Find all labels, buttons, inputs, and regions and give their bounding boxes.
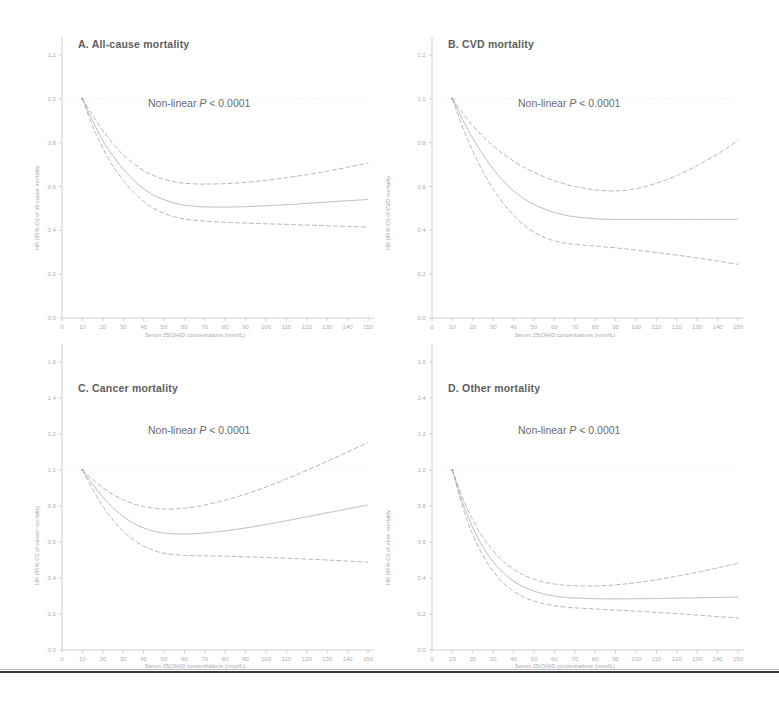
x-tick-label: 140 — [713, 655, 724, 662]
y-tick-label: 0.4 — [418, 574, 427, 581]
x-tick-label: 60 — [551, 655, 558, 662]
x-tick-label: 90 — [612, 655, 619, 662]
scan-artifact-rule — [0, 671, 779, 673]
confidence-interval-curve — [452, 470, 738, 618]
panel-d-plot: 0.00.20.40.60.81.01.21.41.60102030405060… — [0, 0, 779, 701]
x-tick-label: 40 — [510, 655, 517, 662]
y-tick-label: 1.4 — [418, 394, 427, 401]
x-tick-label: 120 — [672, 655, 683, 662]
x-tick-label: 80 — [592, 655, 599, 662]
x-tick-label: 70 — [571, 655, 578, 662]
y-tick-label: 0.8 — [418, 502, 427, 509]
y-tick-label: 1.0 — [418, 466, 427, 473]
x-tick-label: 10 — [449, 655, 456, 662]
y-tick-label: 0.2 — [418, 610, 427, 617]
hazard-ratio-curve — [452, 470, 738, 599]
figure-canvas: A. All-cause mortality Non-linear P < 0.… — [0, 0, 779, 701]
scan-artifact-rule-faint — [0, 669, 779, 670]
reference-point-marker — [451, 469, 453, 471]
y-tick-label: 1.6 — [418, 358, 427, 365]
x-tick-label: 20 — [469, 655, 476, 662]
y-tick-label: 0.6 — [418, 538, 427, 545]
y-tick-label: 1.2 — [418, 430, 427, 437]
x-tick-label: 0 — [430, 655, 434, 662]
x-tick-label: 30 — [490, 655, 497, 662]
x-tick-label: 150 — [733, 655, 744, 662]
x-tick-label: 110 — [652, 655, 662, 662]
y-tick-label: 0.0 — [418, 646, 427, 653]
x-tick-label: 130 — [692, 655, 703, 662]
confidence-interval-curve — [452, 470, 738, 586]
x-tick-label: 50 — [531, 655, 538, 662]
x-tick-label: 100 — [631, 655, 642, 662]
